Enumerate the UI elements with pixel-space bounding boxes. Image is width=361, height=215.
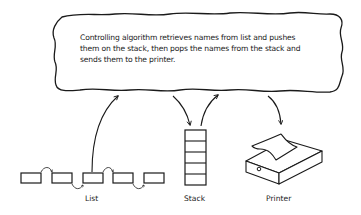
list-label: List [85, 194, 98, 203]
controller-description: Controlling algorithm retrieves names fr… [80, 32, 320, 65]
description-line: sends them to the printer. [80, 54, 320, 65]
diagram-canvas: Controlling algorithm retrieves names fr… [0, 0, 361, 215]
description-line: them on the stack, then pops the names f… [80, 43, 320, 54]
stack-label: Stack [184, 194, 205, 203]
printer-label: Printer [266, 194, 291, 203]
description-line: Controlling algorithm retrieves names fr… [80, 32, 320, 43]
